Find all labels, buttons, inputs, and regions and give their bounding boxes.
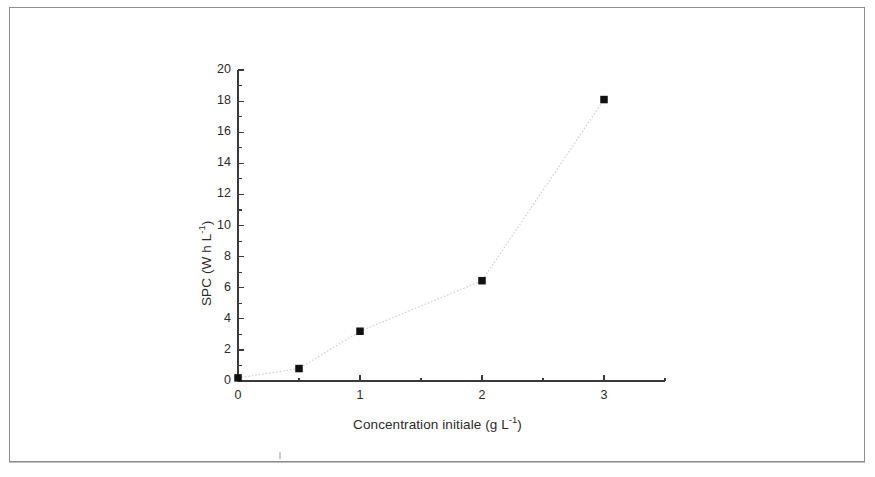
y-tick-label: 8 <box>205 249 231 263</box>
data-point-marker: 0.5, 0.8 <box>295 365 303 373</box>
data-point-marker: 0, 0.2 <box>234 374 242 382</box>
data-point-marker: 2, 6.45 <box>478 277 486 285</box>
y-tick-label: 0 <box>205 373 231 387</box>
x-axis-title-tail: ) <box>517 417 522 432</box>
axes <box>238 70 665 381</box>
y-tick-label: 10 <box>205 218 231 232</box>
x-axis-title: Concentration initiale (g L-1) <box>0 414 875 432</box>
y-tick-label: 16 <box>205 124 231 138</box>
y-tick-label: 6 <box>205 280 231 294</box>
data-point-marker: 3, 18.1 <box>600 96 608 104</box>
x-tick-label: 0 <box>226 388 250 402</box>
y-tick-label: 12 <box>205 186 231 200</box>
x-tick-label: 3 <box>592 388 616 402</box>
y-tick-label: 2 <box>205 342 231 356</box>
y-tick-label: 20 <box>205 62 231 76</box>
data-point-marker: 1, 3.2 <box>356 327 364 335</box>
series-connector-line <box>238 100 604 378</box>
y-tick-label: 18 <box>205 93 231 107</box>
chart-figure: 0, 0.20.5, 0.81, 3.22, 6.453, 18.1 Conce… <box>0 0 875 477</box>
y-axis-title-text: SPC (W h L <box>199 234 214 306</box>
x-tick-label: 1 <box>348 388 372 402</box>
x-tick-label: 2 <box>470 388 494 402</box>
figure-page: 0, 0.20.5, 0.81, 3.22, 6.453, 18.1 Conce… <box>0 0 875 477</box>
plot-canvas: 0, 0.20.5, 0.81, 3.22, 6.453, 18.1 <box>0 0 875 477</box>
data-series: 0, 0.20.5, 0.81, 3.22, 6.453, 18.1 <box>234 96 608 382</box>
x-axis-title-text: Concentration initiale (g L <box>353 417 509 432</box>
y-tick-label: 4 <box>205 311 231 325</box>
y-tick-label: 14 <box>205 155 231 169</box>
